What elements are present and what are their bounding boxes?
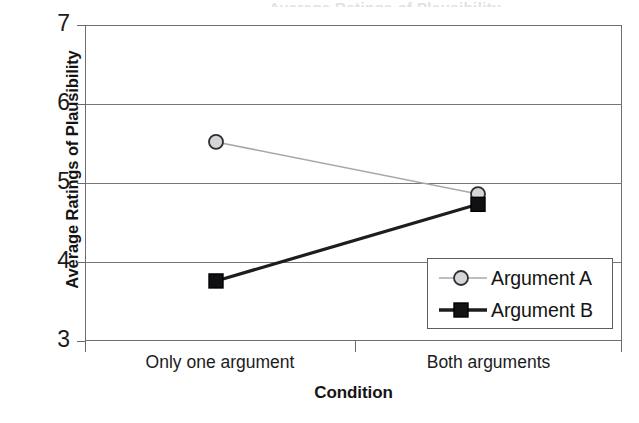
x-tick-label-only-one-argument: Only one argument	[85, 352, 355, 372]
legend-swatch-argument-a	[435, 265, 491, 291]
y-tick-6	[77, 104, 86, 105]
x-axis-title: Condition	[85, 383, 622, 403]
y-tick-7	[77, 25, 86, 26]
legend-entry-argument-b: Argument B	[428, 293, 612, 326]
legend-label-argument-a: Argument A	[491, 267, 592, 289]
y-tick-label-6: 6	[16, 91, 70, 114]
gridline-6	[85, 104, 622, 105]
chart-figure: Average Ratings of Plausibility Average …	[0, 0, 639, 423]
y-tick-label-3: 3	[16, 328, 70, 351]
x-tick-label-both-arguments: Both arguments	[355, 352, 622, 372]
chart-legend: Argument A Argument B	[427, 258, 613, 329]
legend-label-argument-b: Argument B	[491, 299, 593, 321]
legend-entry-argument-a: Argument A	[428, 261, 612, 294]
legend-swatch-argument-b	[435, 297, 491, 323]
y-tick-5	[77, 183, 86, 184]
y-tick-4	[77, 262, 86, 263]
gridline-5	[85, 183, 622, 184]
x-tick-left-edge	[85, 341, 86, 352]
cropped-chart-title: Average Ratings of Plausibility	[150, 0, 620, 7]
y-tick-label-5: 5	[16, 170, 70, 193]
y-tick-label-4: 4	[16, 249, 70, 272]
y-tick-label-7: 7	[16, 12, 70, 35]
x-tick-right-edge	[621, 341, 622, 352]
x-tick-middle	[355, 341, 356, 352]
